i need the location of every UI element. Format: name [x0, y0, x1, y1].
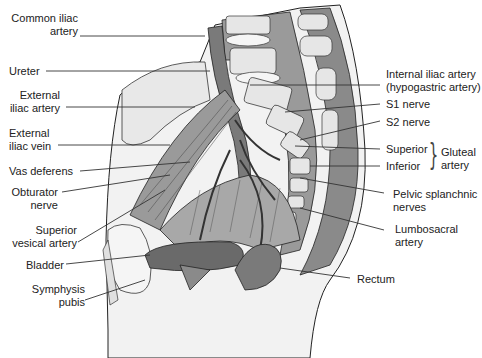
label-gluteal-artery: Gluteal artery [441, 146, 476, 171]
label-symphysis-pubis: Symphysis pubis [32, 283, 85, 308]
label-pelvic-splanchnic-nerves: Pelvic splanchnic nerves [393, 188, 477, 213]
label-obturator-nerve: Obturator nerve [12, 186, 58, 211]
label-external-iliac-vein: External iliac vein [9, 127, 51, 152]
label-s2-nerve: S2 nerve [386, 116, 430, 129]
label-external-iliac-artery: External iliac artery [10, 89, 60, 114]
pelvis-anatomy-figure: Common iliac artery Ureter External ilia… [0, 0, 482, 358]
label-gluteal-inferior: Inferior [386, 160, 420, 173]
label-internal-iliac-artery: Internal iliac artery (hypogastric arter… [386, 68, 481, 93]
label-gluteal-superior: Superior [386, 143, 428, 156]
label-superior-vesical-artery: Superior vesical artery [12, 224, 77, 249]
label-ureter: Ureter [9, 65, 40, 78]
label-bladder: Bladder [26, 259, 64, 272]
label-rectum: Rectum [357, 273, 395, 286]
label-lumbosacral-artery: Lumbosacral artery [395, 223, 458, 248]
label-vas-deferens: Vas deferens [9, 165, 73, 178]
label-s1-nerve: S1 nerve [386, 98, 430, 111]
brace-icon: } [429, 140, 439, 170]
label-common-iliac-artery: Common iliac artery [11, 12, 78, 37]
